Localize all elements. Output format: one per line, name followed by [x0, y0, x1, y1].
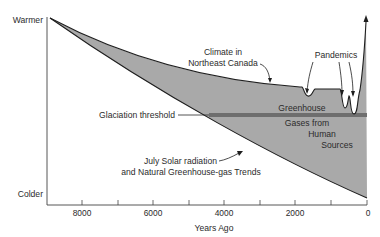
- greenhouse-label-line2: Gases from: [285, 118, 329, 128]
- pandemics-label: Pandemics: [315, 50, 358, 60]
- arrow-down-icon: [351, 91, 355, 97]
- solar-label-line2: and Natural Greenhouse-gas Trends: [121, 167, 261, 177]
- greenhouse-label-line3: Human: [308, 129, 336, 139]
- solar-label-line1: July Solar radiation: [144, 156, 217, 166]
- climate-diagram: 8000 6000 4000 2000 0 Years Ago Warmer C…: [0, 0, 380, 237]
- glaciation-threshold-band: [209, 113, 367, 117]
- x-tick-2000: 2000: [286, 208, 305, 218]
- x-tick-6000: 6000: [144, 208, 163, 218]
- x-tick-0: 0: [366, 208, 371, 218]
- x-ticks: [82, 200, 367, 205]
- climate-label-line1: Climate in: [204, 47, 242, 57]
- greenhouse-label-line1: Greenhouse: [278, 103, 326, 113]
- arrow-up-icon: [364, 15, 369, 22]
- y-axis-colder-label: Colder: [18, 189, 43, 199]
- arrow-down-icon: [268, 78, 272, 83]
- solar-leader-arrow: [219, 153, 239, 161]
- x-tick-4000: 4000: [215, 208, 234, 218]
- glaciation-threshold-label: Glaciation threshold: [99, 110, 175, 120]
- y-axis-warmer-label: Warmer: [13, 15, 43, 25]
- climate-label-line2: Northeast Canada: [188, 58, 258, 68]
- x-tick-8000: 8000: [73, 208, 92, 218]
- pandemic-arrow-3: [349, 62, 353, 95]
- pandemic-arrow-1: [307, 62, 313, 92]
- x-axis-label: Years Ago: [195, 223, 234, 233]
- greenhouse-label-line4: Sources: [321, 140, 353, 150]
